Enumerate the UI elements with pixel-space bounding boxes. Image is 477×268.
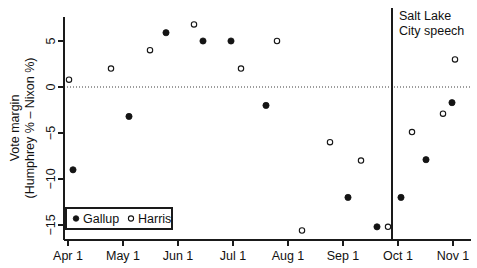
data-point-harris-6	[299, 228, 304, 233]
data-point-harris-7	[327, 140, 332, 145]
data-point-harris-2	[147, 48, 152, 53]
data-point-gallup-1	[126, 113, 132, 119]
legend-label-gallup: Gallup	[83, 212, 119, 226]
x-tick-label-7: Nov 1	[437, 249, 470, 263]
x-tick-label-0: Apr 1	[53, 249, 83, 263]
data-point-gallup-9	[423, 157, 429, 163]
chart-figure: 5 0 −5 −10 −15 Vote margin (Humphrey % –…	[0, 0, 477, 268]
data-point-harris-1	[108, 66, 113, 71]
data-point-gallup-3	[200, 38, 206, 44]
salt-lake-city-speech-label-line1: Salt Lake	[399, 9, 451, 23]
data-point-harris-12	[452, 57, 457, 62]
y-axis-title-line1: Vote margin	[8, 95, 22, 162]
data-point-harris-9	[385, 224, 390, 229]
y-axis-title-line2: (Humphrey % – Nixon %)	[23, 57, 37, 198]
data-point-harris-10	[409, 129, 414, 134]
data-point-harris-0	[66, 77, 71, 82]
data-point-gallup-2	[163, 30, 169, 36]
x-tick-label-5: Sep 1	[327, 249, 360, 263]
data-point-gallup-8	[398, 194, 404, 200]
data-point-harris-4	[238, 66, 243, 71]
data-point-harris-11	[440, 111, 445, 116]
data-point-harris-3	[191, 22, 196, 27]
y-axis-title: Vote margin (Humphrey % – Nixon %)	[8, 57, 37, 198]
series-gallup	[70, 30, 455, 230]
x-tick-label-6: Oct 1	[383, 249, 413, 263]
data-points-layer	[66, 22, 457, 233]
x-axis-ticks	[68, 240, 453, 246]
y-tick-label-4: −15	[44, 214, 58, 235]
data-point-gallup-4	[228, 38, 234, 44]
x-axis-tick-labels: Apr 1 May 1 Jun 1 Jul 1 Aug 1 Sep 1 Oct …	[53, 249, 469, 263]
data-point-gallup-5	[263, 102, 269, 108]
x-tick-label-3: Jul 1	[220, 249, 246, 263]
y-axis-ticks	[58, 41, 64, 225]
y-tick-label-3: −10	[44, 168, 58, 189]
data-point-harris-8	[358, 158, 363, 163]
data-point-gallup-7	[374, 224, 380, 230]
y-tick-label-1: 0	[44, 83, 58, 90]
legend: Gallup Harris	[66, 208, 172, 229]
data-point-harris-5	[274, 38, 279, 43]
x-tick-label-1: May 1	[106, 249, 140, 263]
y-tick-label-2: −5	[44, 126, 58, 140]
y-tick-label-0: 5	[44, 37, 58, 44]
legend-label-harris: Harris	[138, 212, 171, 226]
series-harris	[66, 22, 457, 233]
data-point-gallup-10	[449, 100, 455, 106]
x-tick-label-4: Aug 1	[272, 249, 305, 263]
data-point-gallup-6	[345, 194, 351, 200]
legend-marker-harris	[128, 216, 133, 221]
x-tick-label-2: Jun 1	[163, 249, 194, 263]
data-point-gallup-0	[70, 167, 76, 173]
salt-lake-city-speech-label-line2: City speech	[399, 24, 464, 38]
y-axis-tick-labels: 5 0 −5 −10 −15	[44, 37, 58, 235]
scatter-plot-svg: 5 0 −5 −10 −15 Vote margin (Humphrey % –…	[0, 0, 477, 268]
legend-marker-gallup	[73, 216, 79, 222]
